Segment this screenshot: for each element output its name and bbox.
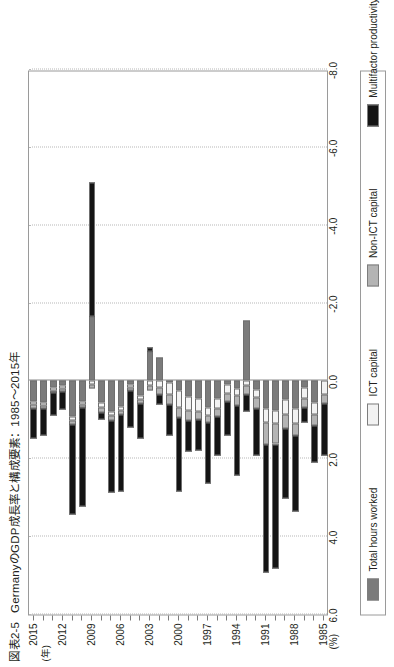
- category-tick: [226, 615, 227, 620]
- bar-segment: [301, 380, 308, 387]
- bar-segment: [50, 392, 57, 415]
- bar-segment: [234, 405, 241, 475]
- legend-swatch: [367, 104, 379, 126]
- value-axis: 6.04.02.00.0-2.0-4.0-6.0-8.0: [328, 70, 358, 615]
- bar-group: [311, 71, 318, 614]
- legend-label: ICT capital: [368, 348, 379, 396]
- bar-segment: [292, 435, 299, 511]
- bar-segment: [30, 408, 37, 438]
- bar-segment: [69, 416, 76, 420]
- bar-segment: [108, 415, 115, 420]
- legend: Total hours workedICT capitalNon-ICT cap…: [360, 70, 386, 615]
- bar-group: [301, 71, 308, 614]
- legend-swatch: [367, 578, 379, 600]
- category-tick-label: 2009: [85, 623, 96, 645]
- bar-segment: [176, 380, 183, 390]
- bar-segment: [321, 394, 328, 403]
- bar-segment: [118, 406, 125, 410]
- bar-segment: [59, 391, 66, 409]
- category-tick: [62, 615, 63, 620]
- bar-group: [98, 71, 105, 614]
- category-tick: [81, 615, 82, 620]
- bar-group: [137, 71, 144, 614]
- bar-segment: [243, 385, 250, 394]
- category-tick: [294, 615, 295, 620]
- bar-segment: [311, 402, 318, 414]
- category-tick: [197, 615, 198, 620]
- bar-segment: [253, 380, 260, 389]
- legend-item: ICT capital: [367, 348, 379, 425]
- bar-group: [272, 71, 279, 614]
- bar-segment: [253, 397, 260, 409]
- bar-segment: [30, 404, 37, 408]
- bar-group: [263, 71, 270, 614]
- bar-segment: [40, 380, 47, 401]
- bar-segment: [98, 407, 105, 412]
- category-tick: [275, 615, 276, 620]
- bar-segment: [263, 408, 270, 423]
- category-tick: [304, 615, 305, 620]
- bar-segment: [156, 380, 163, 387]
- figure-title: 図表2-5GermanyのGDP成長率と構成要素：1985〜2015年: [6, 351, 22, 661]
- bar-group: [195, 71, 202, 614]
- bar-group: [118, 71, 125, 614]
- bar-segment: [282, 399, 289, 414]
- category-tick: [52, 615, 53, 620]
- bar-segment: [69, 420, 76, 424]
- bar-group: [282, 71, 289, 614]
- category-tick: [159, 615, 160, 620]
- bar-segment: [205, 380, 212, 406]
- bar-segment: [127, 390, 134, 427]
- bar-segment: [272, 410, 279, 424]
- category-tick: [246, 615, 247, 620]
- category-tick: [168, 615, 169, 620]
- category-axis-unit: (年): [38, 645, 52, 661]
- bar-segment: [301, 398, 308, 407]
- value-axis-unit: (%): [328, 633, 339, 649]
- legend-label: Multifactor productivity: [368, 0, 379, 97]
- bar-segment: [176, 390, 183, 406]
- bar-segment: [137, 380, 144, 395]
- bar-segment: [214, 380, 221, 398]
- bar-segment: [224, 380, 231, 384]
- bar-segment: [69, 380, 76, 416]
- bar-segment: [108, 420, 115, 492]
- category-tick: [72, 615, 73, 620]
- value-tick-label: 6.0: [328, 608, 339, 622]
- category-tick: [178, 615, 179, 620]
- category-tick-label: 1985: [318, 623, 329, 645]
- category-tick: [323, 615, 324, 620]
- category-tick-label: 1994: [231, 623, 242, 645]
- bar-segment: [234, 388, 241, 395]
- category-tick-label: 2015: [27, 623, 38, 645]
- bar-segment: [311, 414, 318, 426]
- bar-group: [147, 71, 154, 614]
- bar-segment: [234, 380, 241, 388]
- bar-segment: [98, 402, 105, 407]
- value-tick-label: -6.0: [328, 139, 339, 156]
- bar-segment: [195, 419, 202, 450]
- bar-segment: [118, 414, 125, 492]
- value-tick-label: -8.0: [328, 61, 339, 78]
- category-tick-label: 1997: [202, 623, 213, 645]
- bar-segment: [214, 398, 221, 408]
- figure-title-text: GermanyのGDP成長率と構成要素：1985〜2015年: [9, 351, 21, 612]
- bar-segment: [282, 380, 289, 399]
- bar-segment: [137, 399, 144, 403]
- bar-segment: [98, 412, 105, 419]
- bar-segment: [243, 380, 250, 385]
- bar-segment: [214, 416, 221, 455]
- bar-segment: [185, 396, 192, 410]
- bar-group: [205, 71, 212, 614]
- bar-segment: [118, 380, 125, 405]
- category-tick: [265, 615, 266, 620]
- bar-segment: [272, 444, 279, 569]
- value-tick-label: 0.0: [328, 374, 339, 388]
- plot-area: [28, 70, 328, 615]
- bar-segment: [272, 380, 279, 409]
- bar-segment: [292, 423, 299, 435]
- category-tick-label: 2006: [114, 623, 125, 645]
- bar-segment: [156, 394, 163, 404]
- bar-group: [214, 71, 221, 614]
- bar-segment: [214, 408, 221, 416]
